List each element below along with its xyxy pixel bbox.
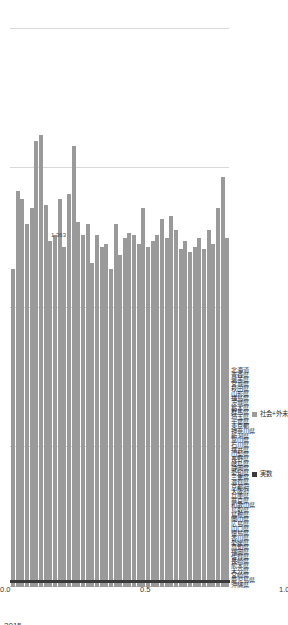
legend-swatch bbox=[252, 412, 257, 417]
value-axis-tick-labels: 0.00.51.01.52.0 bbox=[10, 587, 229, 625]
category-label: 北海道 bbox=[231, 367, 249, 374]
chart-legend: 実数社会+外未流料（中間外加算） bbox=[250, 29, 284, 587]
plot-area: 1.363 bbox=[10, 29, 229, 587]
bars-container: 1.363 bbox=[10, 29, 229, 587]
legend-label: 社会+外未流料（中間外加算） bbox=[260, 410, 288, 417]
legend-item[interactable]: 実数 bbox=[252, 469, 272, 478]
legend-swatch bbox=[252, 472, 257, 477]
axis-tick-label: 0.0 bbox=[0, 586, 10, 595]
legend-label: 実数 bbox=[260, 470, 272, 477]
bar-chart-figure: 2015 0.00.51.01.52.0 1.363 沖縄県鹿児島県宮崎県大分県… bbox=[0, 0, 288, 625]
bar-row bbox=[224, 29, 229, 587]
data-label: 1.363 bbox=[51, 232, 66, 238]
rotated-figure-wrapper: 2015 0.00.51.01.52.0 1.363 沖縄県鹿児島県宮崎県大分県… bbox=[0, 0, 288, 625]
legend-item[interactable]: 社会+外未流料（中間外加算） bbox=[252, 409, 288, 418]
bar-series-main bbox=[225, 238, 229, 587]
